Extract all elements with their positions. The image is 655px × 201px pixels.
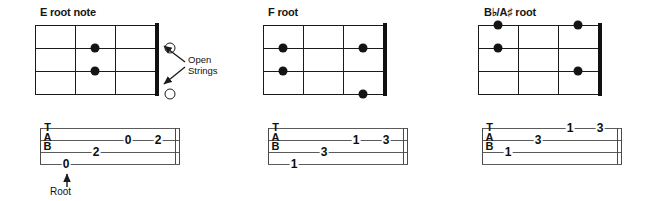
tab-line-2 (482, 140, 622, 141)
tab-end-bar-1 (175, 128, 176, 164)
finger-dot (279, 67, 288, 76)
finger-dot (91, 44, 100, 53)
tab-end-bar-2 (179, 128, 180, 164)
tab-staff: T A B 1 3 1 3 (482, 128, 622, 164)
open-strings-label-line2: Strings (188, 65, 218, 76)
tab-staff: T A B 1 3 1 3 (268, 128, 408, 164)
tab-line-3 (268, 152, 408, 153)
finger-dot (494, 44, 503, 53)
fret-line-1 (303, 25, 304, 94)
tab-clef: T A B (43, 123, 52, 152)
tab-start-bar (40, 128, 41, 164)
panel-title: E root note (40, 6, 96, 18)
tab-clef-b: B (485, 142, 494, 152)
tab-line-1 (40, 128, 180, 129)
open-strings-label-line1: Open (188, 54, 218, 65)
chord-panel-bflat-asharp-root: B♭/A♯ root T A B 1 3 1 3 (440, 0, 655, 201)
tab-clef: T A B (485, 123, 494, 152)
fret-line-0 (35, 25, 36, 94)
tab-number: 1 (352, 133, 361, 147)
finger-dot (359, 44, 368, 53)
fret-line-2 (343, 25, 344, 94)
finger-dot (279, 44, 288, 53)
tab-clef-b: B (43, 142, 52, 152)
tab-number: 3 (596, 121, 605, 135)
fretboard-diagram (263, 25, 383, 95)
tab-clef: T A B (271, 123, 280, 152)
tab-end-bar-1 (403, 128, 404, 164)
nut-line (383, 23, 387, 96)
tab-line-4 (482, 164, 622, 165)
finger-dot (574, 21, 583, 30)
tab-line-1 (268, 128, 408, 129)
finger-dot (91, 67, 100, 76)
tab-number: 2 (154, 133, 163, 147)
fret-line-1 (518, 25, 519, 94)
string-line-4 (478, 94, 598, 95)
fretboard-diagram (35, 25, 155, 95)
finger-dot (359, 90, 368, 99)
tab-number: 3 (534, 133, 543, 147)
root-annotation-label: Root (50, 186, 71, 197)
tab-number: 1 (290, 157, 299, 171)
tab-end-bar-2 (407, 128, 408, 164)
panel-title: F root (268, 6, 298, 18)
tab-number: 1 (504, 145, 513, 159)
string-line-1 (35, 25, 155, 26)
tab-staff: T A B 0 2 0 2 (40, 128, 180, 164)
tab-number: 2 (92, 145, 101, 159)
fret-line-1 (75, 25, 76, 94)
tab-number: 1 (566, 121, 575, 135)
finger-dot (574, 67, 583, 76)
tab-number: 3 (320, 145, 329, 159)
chord-panel-e-root: E root note Open Strings (0, 0, 215, 201)
tab-clef-b: B (271, 142, 280, 152)
tab-end-bar-1 (617, 128, 618, 164)
tab-number: 3 (382, 133, 391, 147)
fret-line-2 (558, 25, 559, 94)
fret-line-0 (263, 25, 264, 94)
string-line-1 (263, 25, 383, 26)
fretboard-diagram (478, 25, 598, 95)
panel-title: B♭/A♯ root (484, 6, 536, 19)
finger-dot (494, 21, 503, 30)
chord-panel-f-root: F root T A B 1 3 1 3 (228, 0, 443, 201)
tab-number: 0 (62, 157, 71, 171)
fret-line-2 (115, 25, 116, 94)
fret-line-0 (478, 25, 479, 94)
tab-number: 0 (124, 133, 133, 147)
tab-start-bar (482, 128, 483, 164)
tab-line-3 (40, 152, 180, 153)
open-strings-annotation: Open Strings (188, 54, 218, 76)
tab-start-bar (268, 128, 269, 164)
tab-end-bar-2 (621, 128, 622, 164)
string-line-4 (35, 94, 155, 95)
nut-line (598, 23, 602, 96)
